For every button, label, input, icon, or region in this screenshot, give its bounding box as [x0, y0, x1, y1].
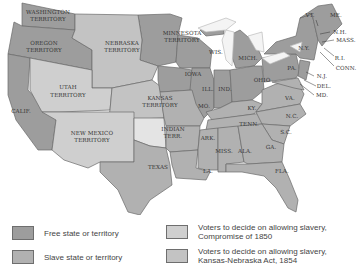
- kansas-nebraska-swatch: [166, 249, 188, 263]
- svg-text:MO.: MO.: [198, 103, 210, 109]
- us-map-1854: WASHINGTONTERRITORY OREGONTERRITORY NEBR…: [0, 0, 358, 215]
- svg-text:N.J.: N.J.: [317, 73, 327, 80]
- legend-compromise-1850: Voters to decide on allowing slavery, Co…: [166, 223, 327, 241]
- svg-text:GA.: GA.: [266, 144, 277, 150]
- new-jersey: [298, 60, 310, 80]
- svg-text:N.Y.: N.Y.: [298, 45, 310, 51]
- iowa: [158, 66, 192, 92]
- compromise-1850-swatch: [166, 225, 188, 239]
- svg-text:KANSASTERRITORY: KANSASTERRITORY: [142, 95, 178, 108]
- svg-text:INDIANTERR.: INDIANTERR.: [161, 126, 184, 139]
- svg-text:CONN.: CONN.: [336, 65, 357, 71]
- svg-text:IND.: IND.: [218, 86, 232, 92]
- svg-text:LA.: LA.: [203, 168, 213, 174]
- svg-text:OHIO: OHIO: [254, 77, 271, 83]
- svg-text:N.H.: N.H.: [333, 29, 346, 35]
- svg-text:VT.: VT.: [304, 12, 314, 18]
- svg-text:CALIF.: CALIF.: [11, 108, 31, 114]
- legend-slave: Slave state or territory: [12, 250, 122, 264]
- svg-text:FLA.: FLA.: [275, 168, 289, 174]
- svg-text:VA.: VA.: [284, 95, 295, 101]
- svg-text:PA.: PA.: [287, 65, 296, 71]
- svg-text:ILL.: ILL.: [202, 86, 214, 92]
- svg-text:OREGONTERRITORY: OREGONTERRITORY: [26, 40, 62, 53]
- svg-text:NEBRASKATERRITORY: NEBRASKATERRITORY: [104, 40, 140, 53]
- svg-text:TEXAS: TEXAS: [148, 164, 168, 170]
- ohio: [230, 66, 264, 102]
- svg-text:R.I.: R.I.: [335, 55, 345, 61]
- svg-text:KY.: KY.: [247, 105, 256, 111]
- svg-text:ALA.: ALA.: [237, 148, 252, 154]
- svg-text:MASS.: MASS.: [336, 37, 356, 43]
- legend-free: Free state or territory: [12, 226, 119, 240]
- legend-kansas-nebraska-1854: Voters to decide on allowing slavery, Ka…: [166, 247, 327, 265]
- legend-kansas-nebraska-line2: Kansas-Nebraska Act, 1854: [198, 256, 327, 265]
- svg-text:MINNESOTATERRITORY: MINNESOTATERRITORY: [163, 30, 202, 43]
- new-york: [264, 14, 318, 60]
- svg-text:ME.: ME.: [330, 12, 342, 18]
- svg-text:DEL.: DEL.: [317, 83, 332, 89]
- svg-text:S.C.: S.C.: [280, 129, 292, 135]
- svg-text:WIS.: WIS.: [209, 49, 223, 55]
- svg-text:NEW MEXICOTERRITORY: NEW MEXICOTERRITORY: [71, 130, 114, 143]
- svg-text:IOWA: IOWA: [185, 71, 203, 77]
- legend-compromise-line1: Voters to decide on allowing slavery,: [198, 223, 327, 232]
- free-swatch: [12, 226, 34, 240]
- svg-text:WASHINGTONTERRITORY: WASHINGTONTERRITORY: [26, 9, 70, 22]
- slave-swatch: [12, 250, 34, 264]
- legend-slave-label: Slave state or territory: [44, 253, 122, 262]
- svg-text:MISS.: MISS.: [215, 148, 233, 154]
- svg-text:ARK.: ARK.: [200, 135, 216, 141]
- map-legend: Free state or territory Slave state or t…: [0, 222, 358, 273]
- svg-text:MICH.: MICH.: [238, 55, 257, 61]
- legend-kansas-nebraska-line1: Voters to decide on allowing slavery,: [198, 247, 327, 256]
- legend-compromise-line2: Compromise of 1850: [198, 232, 327, 241]
- svg-text:N.C.: N.C.: [286, 113, 299, 119]
- legend-free-label: Free state or territory: [44, 229, 119, 238]
- svg-text:MD.: MD.: [316, 92, 328, 98]
- svg-text:TENN.: TENN.: [239, 121, 259, 127]
